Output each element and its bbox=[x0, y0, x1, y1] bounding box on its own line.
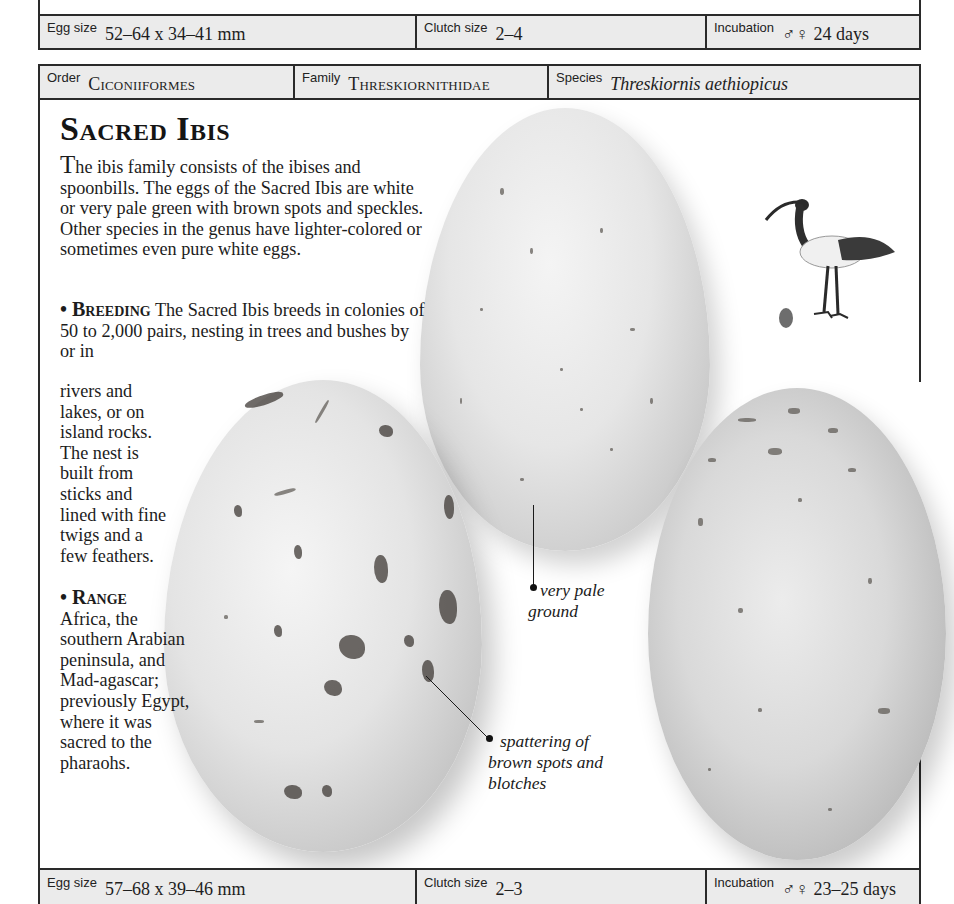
entry-title: Sacred Ibis bbox=[60, 110, 230, 148]
spots-caption: spattering of brown spots and blotches bbox=[488, 731, 618, 794]
range-paragraph: • RangeAfrica, the southern Arabian peni… bbox=[60, 587, 200, 773]
pale-ground-leader-line bbox=[533, 505, 534, 585]
range-heading: • Range bbox=[60, 586, 127, 608]
intro-paragraph: The ibis family consists of the ibises a… bbox=[60, 155, 425, 260]
egg-photo-speckled bbox=[648, 388, 946, 860]
egg-size-label: Egg size bbox=[47, 20, 97, 35]
egg-data-bar: Egg size 57–68 x 39–46 mm Clutch size 2–… bbox=[38, 868, 921, 904]
breeding-heading: • Breeding bbox=[60, 298, 151, 320]
taxonomy-bar: Order Ciconiiformes Family Threskiornith… bbox=[38, 64, 921, 100]
previous-egg-data-bar: Egg size 52–64 x 34–41 mm Clutch size 2–… bbox=[38, 14, 921, 50]
incubation-cell: Incubation ♂♀ 23–25 days bbox=[707, 870, 919, 904]
clutch-size-label: Clutch size bbox=[424, 875, 488, 890]
intro-text: he ibis family consists of the ibises an… bbox=[60, 157, 423, 259]
clutch-size-cell: Clutch size 2–3 bbox=[417, 870, 707, 904]
breeding-paragraph: • Breeding The Sacred Ibis breeds in col… bbox=[60, 299, 425, 362]
species-value: Threskiornis aethiopicus bbox=[610, 74, 788, 95]
egg-size-value: 52–64 x 34–41 mm bbox=[105, 24, 246, 45]
family-value: Threskiornithidae bbox=[348, 74, 490, 95]
panel-border-right bbox=[919, 98, 921, 382]
order-value: Ciconiiformes bbox=[88, 74, 195, 95]
egg-size-cell: Egg size 52–64 x 34–41 mm bbox=[40, 16, 417, 48]
incubation-value: ♂♀ 23–25 days bbox=[782, 879, 896, 900]
incubation-label: Incubation bbox=[714, 20, 774, 35]
clutch-size-value: 2–4 bbox=[496, 24, 523, 45]
species-label: Species bbox=[556, 70, 602, 85]
incubation-cell: Incubation ♂♀ 24 days bbox=[707, 16, 919, 48]
order-cell: Order Ciconiiformes bbox=[40, 66, 295, 98]
egg-size-value: 57–68 x 39–46 mm bbox=[105, 879, 246, 900]
pale-ground-caption: very pale ground bbox=[528, 580, 638, 622]
incubation-label: Incubation bbox=[714, 875, 774, 890]
intro-dropcap: T bbox=[60, 151, 75, 178]
sacred-ibis-illustration-icon bbox=[760, 190, 910, 340]
clutch-size-value: 2–3 bbox=[496, 879, 523, 900]
family-cell: Family Threskiornithidae bbox=[295, 66, 549, 98]
clutch-size-cell: Clutch size 2–4 bbox=[417, 16, 707, 48]
egg-size-label: Egg size bbox=[47, 875, 97, 890]
clutch-size-label: Clutch size bbox=[424, 20, 488, 35]
range-text: Africa, the southern Arabian peninsula, … bbox=[60, 609, 189, 773]
breeding-continued: rivers and lakes, or on island rocks. Th… bbox=[60, 381, 170, 566]
egg-scale-icon bbox=[779, 308, 793, 328]
species-cell: Species Threskiornis aethiopicus bbox=[549, 66, 919, 98]
incubation-value: ♂♀ 24 days bbox=[782, 24, 869, 45]
previous-panel-edge bbox=[38, 0, 921, 14]
spots-leader-line bbox=[420, 670, 495, 745]
family-label: Family bbox=[302, 70, 340, 85]
egg-size-cell: Egg size 57–68 x 39–46 mm bbox=[40, 870, 417, 904]
order-label: Order bbox=[47, 70, 80, 85]
